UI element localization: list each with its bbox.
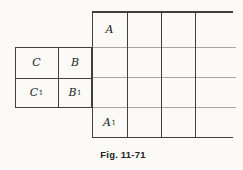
label-region-a-text: A (106, 24, 114, 35)
grid-line-vertical-2 (127, 11, 128, 138)
label-region-a1-subscript: 1 (111, 120, 115, 127)
label-region-c-text: C (32, 57, 40, 68)
grid-line-vertical-4 (195, 11, 196, 138)
label-region-a1-text: A (103, 117, 111, 128)
label-region-b1-subscript: 1 (77, 90, 81, 97)
grid-line-vertical-3 (161, 11, 162, 138)
label-region-b1: B1 (58, 78, 92, 107)
label-region-c1: C1 (15, 78, 58, 107)
label-region-b: B (58, 47, 92, 77)
label-region-b1-text: B (68, 87, 76, 98)
label-region-c1-subscript: 1 (39, 90, 43, 97)
figure-caption: Fig. 11-71 (78, 149, 168, 160)
grid-line-horizontal-row2 (92, 77, 236, 78)
veitch-diagram-figure: A C B C1 B1 A1 Fig. 11-71 (0, 0, 243, 170)
grid-line-horizontal-row1 (92, 47, 236, 48)
label-region-a: A (92, 12, 127, 46)
label-region-b-text: B (71, 57, 79, 68)
label-region-c1-text: C (30, 87, 38, 98)
label-region-a1: A1 (92, 107, 127, 137)
label-region-c: C (15, 47, 58, 77)
